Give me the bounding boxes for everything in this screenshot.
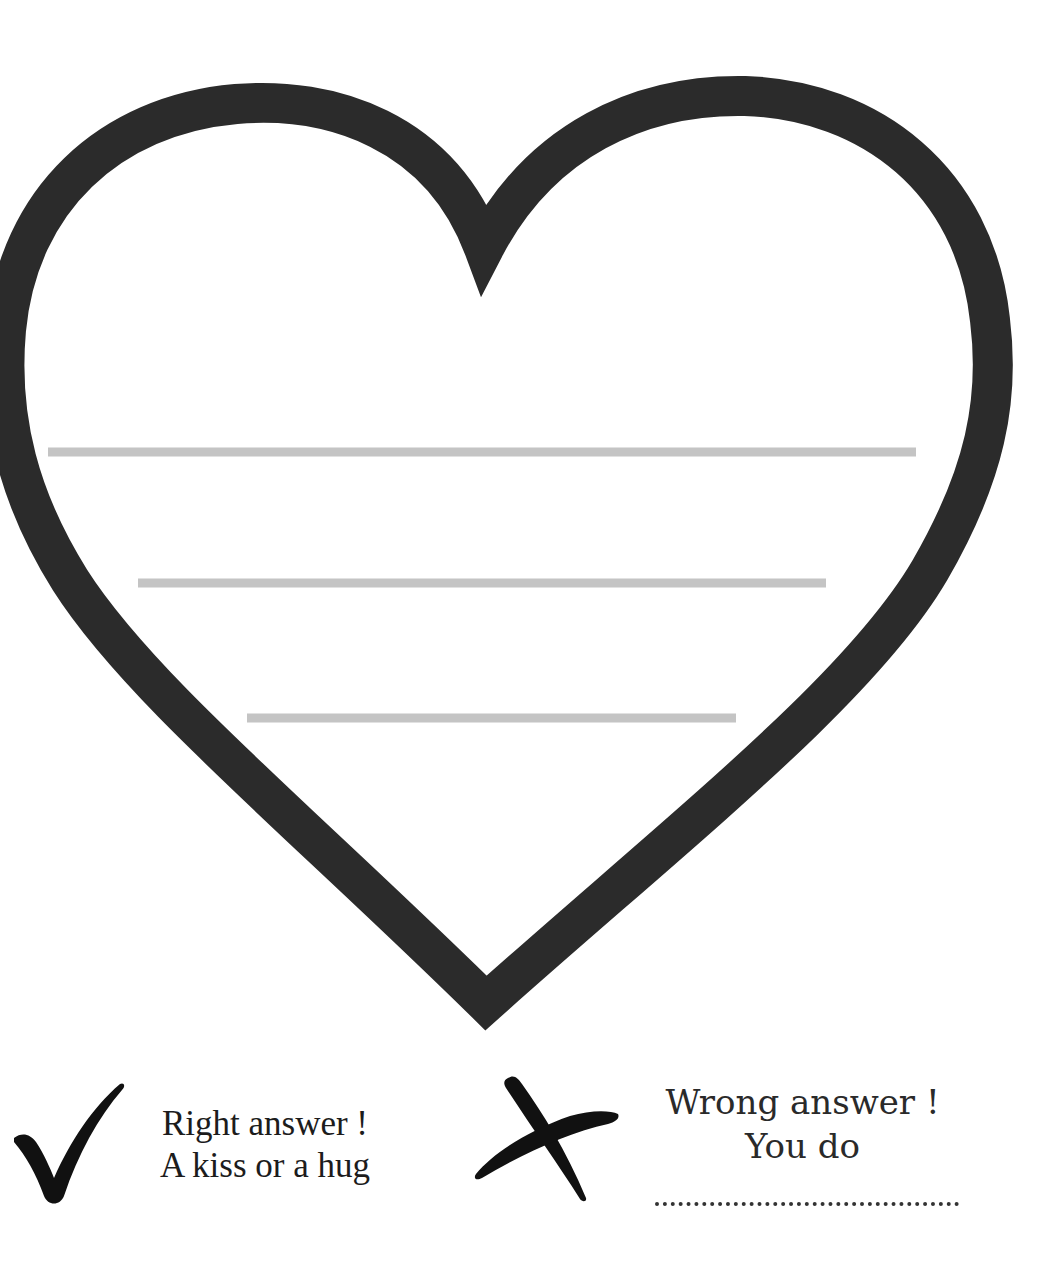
heart-shape [4, 96, 992, 1003]
right-answer-reward: A kiss or a hug [130, 1145, 400, 1187]
right-answer-text: Right answer ! A kiss or a hug [130, 1103, 400, 1187]
dotted-answer-blank[interactable] [655, 1202, 959, 1206]
wrong-answer-text: Wrong answer ! You do [630, 1080, 975, 1168]
cross-icon [470, 1072, 620, 1207]
wrong-answer-instruction: You do [630, 1124, 975, 1168]
heart-outline [0, 0, 1051, 1060]
wrong-answer-title: Wrong answer ! [630, 1080, 975, 1124]
check-icon [8, 1078, 128, 1208]
right-answer-title: Right answer ! [130, 1103, 400, 1145]
